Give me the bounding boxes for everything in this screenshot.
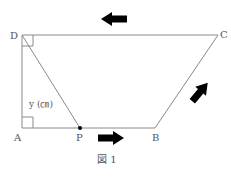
right-angle-marker-a (22, 117, 33, 128)
figure-caption: 図 1 (97, 154, 117, 165)
trapezoid-figure: D C A B P y (㎝) 図 1 (0, 0, 231, 178)
label-c: C (220, 29, 228, 40)
label-b: B (152, 132, 159, 143)
arrow-up-right-icon (187, 78, 213, 105)
label-d: D (10, 30, 18, 41)
point-p-dot (78, 126, 82, 130)
label-a: A (13, 132, 22, 143)
label-y-cm: y (㎝) (28, 99, 53, 109)
arrow-left-icon (101, 12, 127, 26)
label-p: P (76, 132, 83, 143)
segment-dp (22, 35, 80, 128)
arrow-right-icon (98, 131, 124, 145)
